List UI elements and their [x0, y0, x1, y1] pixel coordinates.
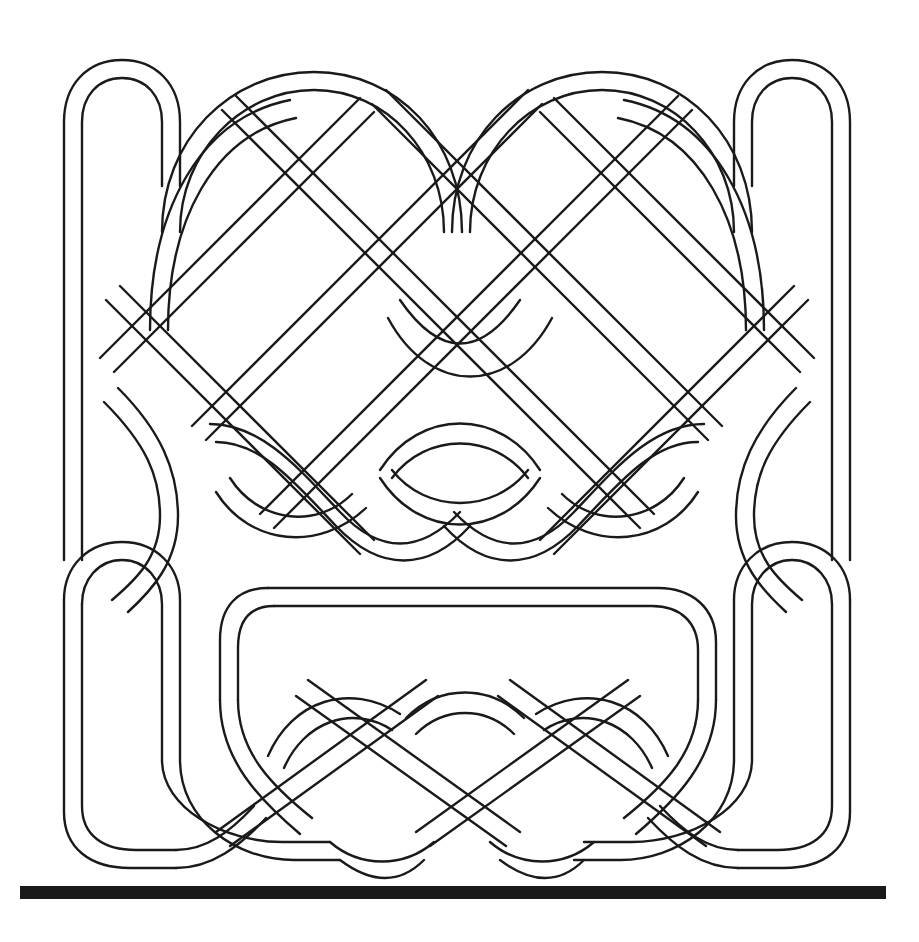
- band-top-arc-2: [452, 72, 752, 232]
- celtic-knot-figure: Celtic knotwork panel Symmetric interlac…: [0, 0, 919, 942]
- inner-rounded-rect: [220, 588, 716, 700]
- lower-hump-2: [406, 693, 524, 735]
- band-mid-arc-left: [216, 478, 366, 537]
- band-outer-left-lower: [64, 542, 340, 860]
- connector-right: [736, 388, 810, 612]
- diagonal-nesw-4: [100, 98, 374, 372]
- band-outer-right-upper: [734, 60, 850, 560]
- inner-panel-right-descent: [624, 700, 716, 834]
- knotwork-drawing: [0, 0, 919, 942]
- band-left-return: [64, 600, 176, 868]
- middle-wave-section: [104, 388, 810, 612]
- upper-plait-section: [64, 60, 850, 560]
- bottom-scallop-center-left: [330, 842, 434, 878]
- lower-diagonal-nesw-1: [416, 680, 640, 846]
- lower-diagonal-nwse-1: [296, 680, 520, 846]
- connector-left: [104, 388, 178, 612]
- inner-panel-left-descent: [220, 700, 312, 834]
- band-outer-left-upper: [64, 60, 180, 560]
- band-outer-right-lower: [574, 542, 850, 860]
- lower-panel-section: [64, 542, 850, 878]
- diagonal-nesw-2: [192, 90, 542, 440]
- band-center-arch-upper: [388, 318, 552, 377]
- wave-center-lens: [380, 424, 540, 525]
- band-right-return: [738, 600, 850, 868]
- band-top-arc-1: [162, 72, 462, 232]
- band-mid-arc-right: [548, 478, 698, 537]
- lower-diagonal-nwse-2: [498, 680, 720, 846]
- diagonal-nwse-4: [540, 98, 814, 372]
- lower-diagonal-nesw-2: [216, 680, 438, 846]
- baseline-bar: [20, 886, 886, 899]
- diagonal-nwse-2: [372, 90, 722, 440]
